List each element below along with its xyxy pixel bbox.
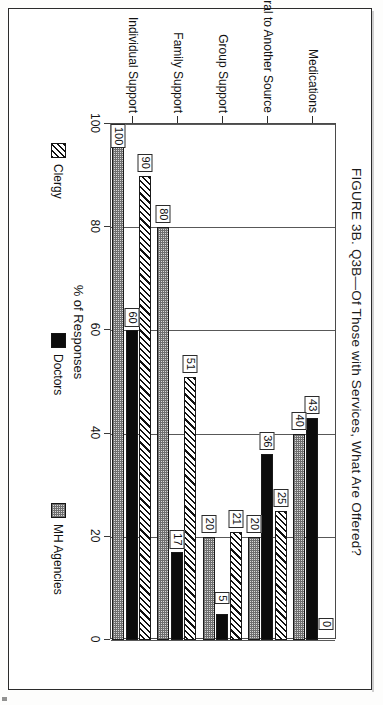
bar-clergy	[274, 511, 286, 640]
category-axis-label: Family Support	[170, 32, 184, 113]
bar-clergy	[184, 376, 196, 639]
value-axis-tick-label: 20	[88, 529, 102, 542]
bar-value-label: 90	[137, 153, 152, 171]
value-axis-tick	[104, 432, 110, 433]
bar-value-label: 0	[318, 618, 333, 630]
scanned-page: FIGURE 3B. Q3B—Of Those with Services, W…	[0, 0, 383, 705]
bar-value-label: 100	[110, 124, 125, 148]
category-group: 21520	[199, 124, 244, 638]
legend-item-doctors: Doctors	[51, 333, 66, 395]
bar-doctors	[306, 418, 318, 640]
category-axis-label: Group Support	[216, 34, 230, 113]
bar-mh-agencies	[292, 433, 304, 639]
legend-item-mh-agencies: MH Agencies	[51, 503, 66, 595]
legend-swatch	[51, 143, 66, 158]
bar-value-label: 43	[304, 396, 319, 414]
plot-area: 90601005117802152025362004340	[110, 123, 336, 639]
category-axis-label: Individual Support	[125, 16, 139, 112]
value-axis-title: % of Responses	[71, 37, 86, 687]
bar-clergy	[139, 175, 151, 639]
bar-value-label: 51	[182, 354, 197, 372]
category-group: 9060100	[109, 124, 154, 638]
bar-value-label: 20	[246, 514, 261, 532]
category-axis-tick	[222, 116, 223, 123]
rotated-figure-wrapper: FIGURE 3B. Q3B—Of Those with Services, W…	[9, 9, 383, 705]
bar-doctors	[125, 330, 137, 640]
category-axis-label: Medications	[306, 48, 320, 112]
value-axis-tick-label: 100	[88, 112, 102, 132]
value-axis-tick	[104, 226, 110, 227]
category-axis-tick	[312, 116, 313, 123]
bar-value-label: 36	[259, 432, 274, 450]
legend-label: Doctors	[51, 354, 65, 395]
category-axis-tick	[176, 116, 177, 123]
value-axis-tick-label: 40	[88, 425, 102, 438]
value-axis-tick	[104, 329, 110, 330]
bar-value-label: 80	[155, 205, 170, 223]
bar-value-label: 5	[214, 592, 229, 604]
value-axis-tick-label: 0	[88, 635, 102, 642]
bar-mh-agencies	[112, 124, 124, 640]
value-axis-tick	[104, 535, 110, 536]
category-axis-tick	[267, 116, 268, 123]
category-group: 253620	[244, 124, 289, 638]
value-axis-tick-label: 80	[88, 219, 102, 232]
bar-mh-agencies	[202, 536, 214, 639]
bar-value-label: 21	[228, 509, 243, 527]
category-group: 04340	[289, 124, 334, 638]
chart-title: FIGURE 3B. Q3B—Of Those with Services, W…	[349, 37, 364, 687]
bar-doctors	[170, 552, 182, 640]
scan-artifact-speck	[2, 697, 7, 701]
bar-value-label: 40	[291, 411, 306, 429]
bar-mh-agencies	[157, 227, 169, 640]
category-axis: Individual SupportFamily SupportGroup Su…	[110, 37, 336, 123]
legend-item-clergy: Clergy	[51, 143, 66, 199]
bar-value-label: 60	[124, 308, 139, 326]
bar-doctors	[261, 454, 273, 640]
category-axis-label: Referral to Another Source	[261, 0, 275, 113]
value-axis-title-text: % of Responses	[71, 284, 86, 379]
bar-chart: FIGURE 3B. Q3B—Of Those with Services, W…	[36, 37, 366, 687]
bar-doctors	[216, 614, 228, 640]
legend-label: MH Agencies	[51, 524, 65, 595]
value-axis-tick-label: 60	[88, 322, 102, 335]
value-axis-tick	[104, 123, 110, 124]
legend-label: Clergy	[51, 164, 65, 199]
category-group: 511780	[154, 124, 199, 638]
bar-value-label: 17	[169, 530, 184, 548]
legend-swatch	[51, 503, 66, 518]
value-axis-tick	[104, 639, 110, 640]
bar-mh-agencies	[247, 536, 259, 639]
bar-value-label: 25	[273, 489, 288, 507]
bar-value-label: 20	[201, 514, 216, 532]
figure-border: FIGURE 3B. Q3B—Of Those with Services, W…	[8, 8, 372, 690]
category-axis-tick	[131, 116, 132, 123]
bar-clergy	[229, 531, 241, 639]
chart-legend: ClergyDoctorsMH Agencies	[38, 123, 66, 639]
legend-swatch	[51, 333, 66, 348]
